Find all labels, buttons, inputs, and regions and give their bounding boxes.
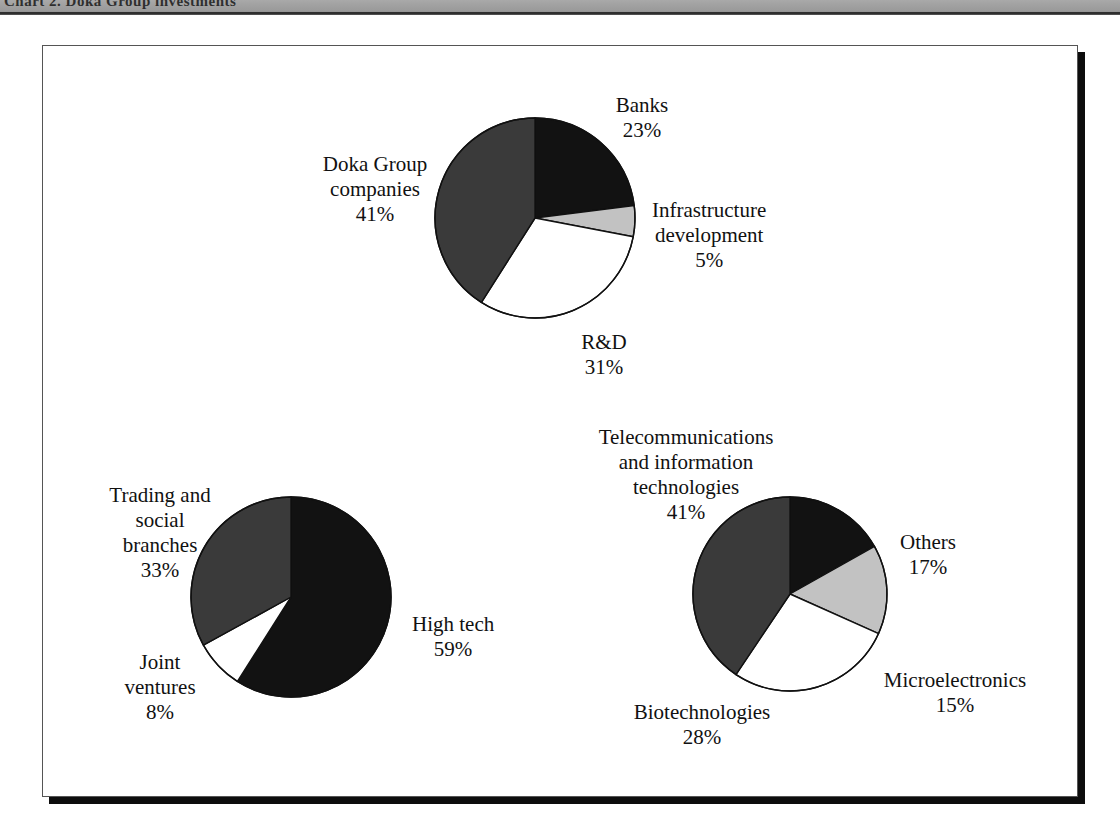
pie-slice-label-value: 28% [634,725,770,750]
pie-slice-label-name: Infrastructure development [652,198,766,248]
pie-slice-label-value: 17% [900,555,956,580]
pie-slice-label-name: High tech [412,612,494,637]
pie-slice-label-name: Trading and social branches [109,483,210,558]
pie-slice-label-name: Banks [616,93,669,118]
pie-slice-label-name: Telecommunications and information techn… [599,425,774,500]
pie-slice-label-name: Biotechnologies [634,700,770,725]
pie-slice-label: Biotechnologies28% [634,700,770,750]
pie-slice-label: Doka Group companies41% [323,152,427,227]
pie-slice-label: High tech59% [412,612,494,662]
pie-slice-label-value: 41% [599,500,774,525]
pie-slice-label: Telecommunications and information techn… [599,425,774,525]
chart-investment-sources [432,115,638,321]
pie-slice-label: Trading and social branches33% [109,483,210,583]
pie-slice-label-value: 5% [652,248,766,273]
pie-slice-label: Microelectronics15% [884,668,1026,718]
pie-slice-label-name: Doka Group companies [323,152,427,202]
pie-slice-label-value: 59% [412,637,494,662]
pie-slice-label-name: Joint ventures [124,650,195,700]
pie-slice-label-name: Microelectronics [884,668,1026,693]
pie-slice-label-value: 33% [109,558,210,583]
pie-slice-label: Joint ventures8% [124,650,195,725]
pie-slice-label-value: 8% [124,700,195,725]
pie-slice-label-value: 23% [616,118,669,143]
pie-slice-label: Others17% [900,530,956,580]
figure-canvas: Banks23%Infrastructure development5%R&D3… [0,0,1120,836]
pie-slice-label-name: Others [900,530,956,555]
pie-slice-label-value: 31% [581,355,627,380]
pie-slice-label: Banks23% [616,93,669,143]
pie-slice-label-value: 41% [323,202,427,227]
pie-slice-label: Infrastructure development5% [652,198,766,273]
pie-slice-label-value: 15% [884,693,1026,718]
chart-business-structure [188,494,394,700]
pie-slice-label: R&D31% [581,330,627,380]
pie-slice-label-name: R&D [581,330,627,355]
